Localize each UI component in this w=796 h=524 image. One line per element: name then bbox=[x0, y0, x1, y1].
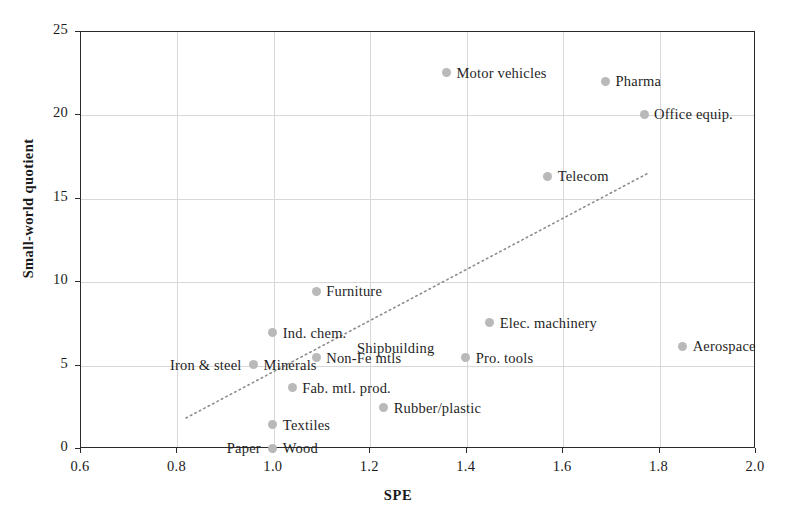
gridline-horizontal bbox=[81, 282, 754, 283]
x-axis-tick bbox=[176, 448, 177, 453]
data-point[interactable] bbox=[312, 287, 321, 296]
x-axis-tick-label: 0.6 bbox=[50, 458, 110, 475]
data-point-label: Textiles bbox=[283, 416, 330, 433]
y-axis-tick bbox=[75, 114, 80, 115]
x-axis-tick bbox=[80, 448, 81, 453]
gridline-vertical bbox=[177, 32, 178, 447]
gridline-vertical bbox=[274, 32, 275, 447]
data-point-label: Telecom bbox=[558, 168, 609, 185]
x-axis-tick-label: 1.4 bbox=[436, 458, 496, 475]
y-axis-tick-label: 5 bbox=[28, 355, 68, 372]
gridline-vertical bbox=[467, 32, 468, 447]
data-point-label: Minerals bbox=[264, 356, 317, 373]
x-axis-tick-label: 2.0 bbox=[725, 458, 785, 475]
x-axis-tick-label: 1.2 bbox=[339, 458, 399, 475]
data-point[interactable] bbox=[678, 342, 687, 351]
x-axis-tick-label: 1.0 bbox=[243, 458, 303, 475]
x-axis-tick bbox=[466, 448, 467, 453]
data-point-label: Motor vehicles bbox=[456, 64, 546, 81]
scatter-chart: Small-world quotient SPE 0.60.81.01.21.4… bbox=[0, 0, 796, 524]
data-point-label: Ind. chem. bbox=[283, 324, 347, 341]
x-axis-tick bbox=[562, 448, 563, 453]
data-point-label: Furniture bbox=[326, 283, 382, 300]
x-axis-tick-label: 1.8 bbox=[629, 458, 689, 475]
gridline-vertical bbox=[563, 32, 564, 447]
data-point-label: Non-Fe mtls bbox=[326, 349, 401, 366]
x-axis-title: SPE bbox=[0, 487, 796, 504]
plot-area bbox=[80, 31, 755, 448]
data-point-label: Rubber/plastic bbox=[394, 399, 481, 416]
y-axis-tick bbox=[75, 448, 80, 449]
y-axis-tick bbox=[75, 281, 80, 282]
y-axis-tick-label: 20 bbox=[28, 104, 68, 121]
y-axis-tick-label: 10 bbox=[28, 271, 68, 288]
y-axis-tick-label: 25 bbox=[28, 21, 68, 38]
data-point[interactable] bbox=[640, 110, 649, 119]
x-axis-tick-label: 0.8 bbox=[146, 458, 206, 475]
data-point-label: Office equip. bbox=[654, 106, 733, 123]
data-point[interactable] bbox=[601, 77, 610, 86]
y-axis-tick bbox=[75, 365, 80, 366]
data-point-label: Aerospace bbox=[693, 338, 756, 355]
data-point-label: Fab. mtl. prod. bbox=[302, 379, 391, 396]
data-point-label: Paper bbox=[227, 440, 261, 457]
gridline-vertical bbox=[660, 32, 661, 447]
gridline-horizontal bbox=[81, 115, 754, 116]
x-axis-tick bbox=[369, 448, 370, 453]
data-point-label: Pharma bbox=[616, 73, 662, 90]
y-axis-tick-label: 0 bbox=[28, 438, 68, 455]
data-point-label: Pro. tools bbox=[476, 349, 534, 366]
y-axis-title: Small-world quotient bbox=[20, 89, 37, 329]
y-axis-tick-label: 15 bbox=[28, 188, 68, 205]
data-point-label: Wood bbox=[283, 440, 318, 457]
x-axis-tick bbox=[755, 448, 756, 453]
x-axis-tick-label: 1.6 bbox=[532, 458, 592, 475]
gridline-horizontal bbox=[81, 199, 754, 200]
x-axis-tick bbox=[659, 448, 660, 453]
data-point[interactable] bbox=[543, 172, 552, 181]
y-axis-tick bbox=[75, 198, 80, 199]
data-point-label: Iron & steel bbox=[170, 356, 242, 373]
data-point[interactable] bbox=[268, 444, 277, 453]
y-axis-tick bbox=[75, 31, 80, 32]
data-point-label: Elec. machinery bbox=[500, 314, 597, 331]
